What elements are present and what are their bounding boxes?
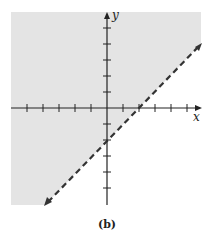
figure-caption: (b)	[98, 218, 116, 231]
y-axis-label: y	[111, 8, 119, 22]
x-axis-label: x	[193, 110, 200, 124]
inequality-graph: y x (b)	[0, 0, 208, 239]
